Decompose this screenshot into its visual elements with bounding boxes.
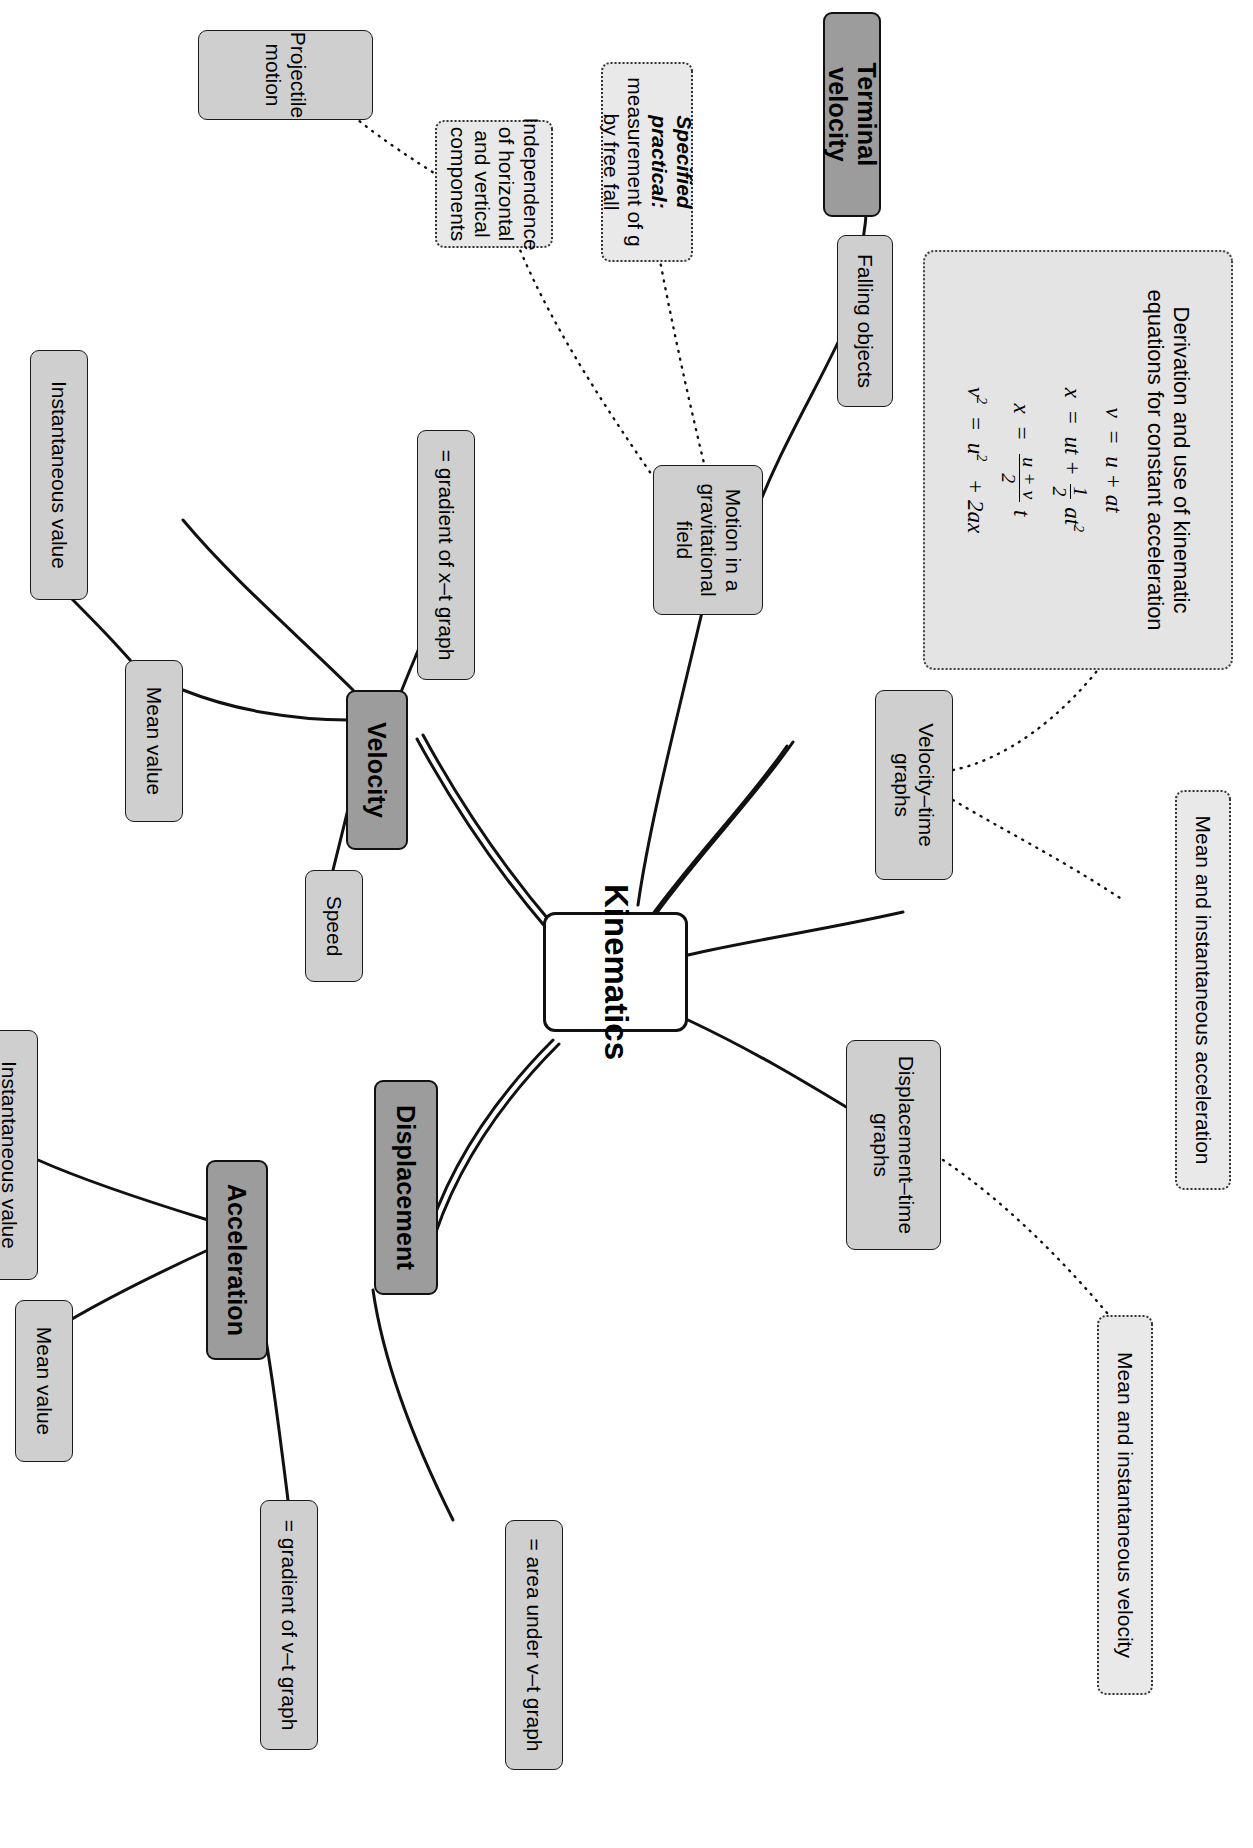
node-label: Acceleration (223, 1184, 252, 1336)
node-label: = gradient of v–t graph (277, 1520, 301, 1731)
node-acceleration-instantaneous-value[interactable]: Instantaneous value (0, 1030, 38, 1280)
node-label: Velocity (363, 722, 392, 818)
node-kinematics-centre[interactable]: Kinematics (543, 912, 688, 1032)
node-terminal-velocity[interactable]: Terminal velocity (823, 12, 881, 217)
fraction-u-plus-v-over-2: u + v 2 (999, 454, 1040, 502)
equation-4: v2 = u2 + 2ax (962, 387, 990, 533)
node-acceleration[interactable]: Acceleration (206, 1160, 268, 1360)
node-falling-objects[interactable]: Falling objects (837, 235, 893, 407)
node-velocity-mean-value[interactable]: Mean value (125, 660, 183, 822)
equation-2: x = ut + 1 2 at2 (1049, 388, 1090, 532)
node-velocity[interactable]: Velocity (346, 690, 408, 850)
node-label: Motion in a gravitational field (671, 472, 744, 608)
node-label: Falling objects (853, 254, 877, 388)
node-label: Velocity–time graphs (890, 697, 939, 873)
node-label: Mean and instantaneous velocity (1113, 1352, 1137, 1658)
node-gradient-of-xt-graph[interactable]: = gradient of x–t graph (417, 430, 475, 680)
node-mean-and-instantaneous-acceleration[interactable]: Mean and instantaneous acceleration (1175, 790, 1231, 1190)
specified-practical-line2: measurement (624, 77, 647, 205)
node-label: = gradient of x–t graph (434, 450, 458, 661)
node-label: Instantaneous value (47, 381, 71, 569)
node-label: Mean and instantaneous acceleration (1191, 815, 1215, 1164)
node-acceleration-mean-value[interactable]: Mean value (15, 1300, 73, 1462)
node-motion-in-a-gravitational-field[interactable]: Motion in a gravitational field (653, 465, 763, 615)
kinematic-equations-title: Derivation and use of kinematic equation… (1141, 258, 1194, 662)
node-label: Independence of horizontal and vertical … (445, 117, 542, 250)
node-mean-and-instantaneous-velocity[interactable]: Mean and instantaneous velocity (1097, 1315, 1153, 1695)
node-speed[interactable]: Speed (305, 870, 363, 982)
node-projectile-motion[interactable]: Projectile motion (198, 30, 373, 120)
node-displacement[interactable]: Displacement (374, 1080, 438, 1295)
node-area-under-vt-graph[interactable]: = area under v–t graph (505, 1520, 563, 1770)
node-independence-of-components[interactable]: Independence of horizontal and vertical … (435, 120, 553, 248)
node-specified-practical[interactable]: Specified practical: measurement of g by… (601, 62, 693, 262)
node-displacement-time-graphs[interactable]: Displacement–time graphs (846, 1040, 941, 1250)
node-label: Displacement (392, 1105, 421, 1270)
node-label: Instantaneous value (0, 1061, 21, 1249)
node-label: Terminal velocity (823, 20, 881, 209)
equation-3: x = u + v 2 t (999, 404, 1040, 517)
mind-map-canvas: Derivation and use of kinematic equation… (0, 0, 1253, 1848)
equation-1: v = u + at (1100, 407, 1127, 512)
node-label: Mean value (32, 1327, 56, 1436)
node-label: Projectile motion (261, 32, 310, 118)
node-label: Mean value (142, 687, 166, 796)
node-label: = area under v–t graph (522, 1538, 546, 1751)
node-label: Speed (322, 896, 346, 957)
node-label: Specified practical: measurement of g by… (598, 70, 695, 254)
node-kinematic-equations[interactable]: Derivation and use of kinematic equation… (923, 250, 1233, 670)
centre-label: Kinematics (596, 884, 634, 1060)
node-velocity-instantaneous-value[interactable]: Instantaneous value (30, 350, 88, 600)
specified-practical-lead: Specified practical: (648, 115, 695, 208)
node-gradient-of-vt-graph[interactable]: = gradient of v–t graph (260, 1500, 318, 1750)
node-velocity-time-graphs[interactable]: Velocity–time graphs (875, 690, 953, 880)
node-label: Displacement–time graphs (869, 1047, 918, 1243)
fraction-one-half: 1 2 (1049, 484, 1090, 500)
